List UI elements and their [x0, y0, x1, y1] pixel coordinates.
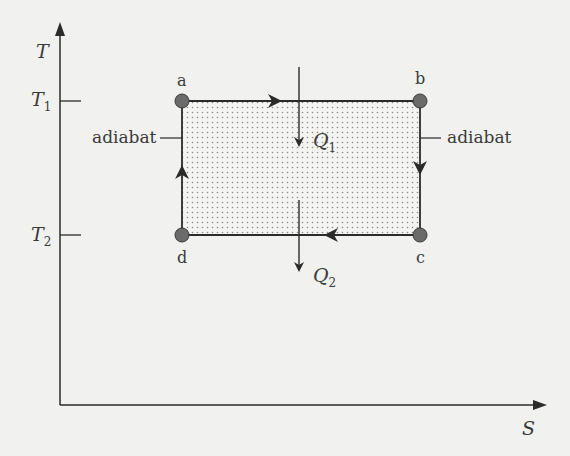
tick-label-t2: T2	[31, 225, 51, 244]
point-b	[413, 94, 427, 108]
x-axis	[60, 400, 547, 410]
point-d	[175, 228, 189, 242]
y-axis-label: T	[36, 42, 49, 61]
adiabat-left-label: adiabat	[92, 129, 156, 146]
tick-label-t2-sub: 2	[44, 235, 52, 249]
tick-label-t2-main: T	[31, 223, 44, 245]
point-label-b: b	[415, 71, 425, 87]
diagram-canvas	[0, 0, 570, 456]
tick-label-t1: T1	[31, 90, 51, 109]
tick-label-t1-main: T	[31, 88, 44, 110]
heat-in-label: Q1	[313, 131, 336, 150]
carnot-ts-diagram: T S T1 T2 a b c d adiabat adiabat Q1 Q2	[0, 0, 570, 456]
heat-out-label-sub: 2	[329, 276, 337, 290]
point-a	[175, 94, 189, 108]
adiabat-right-label: adiabat	[447, 129, 511, 146]
work-area-shading	[182, 101, 420, 235]
point-label-a: a	[177, 73, 187, 89]
heat-in-label-main: Q	[313, 129, 329, 151]
point-c	[413, 228, 427, 242]
y-axis-arrow-icon	[55, 22, 65, 36]
x-axis-label: S	[522, 419, 535, 438]
heat-in-label-sub: 1	[329, 141, 337, 155]
point-label-c: c	[416, 250, 425, 266]
x-axis-arrow-icon	[533, 400, 547, 410]
tick-label-t1-sub: 1	[44, 100, 52, 114]
heat-out-label-main: Q	[313, 264, 329, 286]
point-label-d: d	[177, 250, 187, 266]
y-axis	[55, 22, 65, 405]
heat-out-label: Q2	[313, 266, 336, 285]
